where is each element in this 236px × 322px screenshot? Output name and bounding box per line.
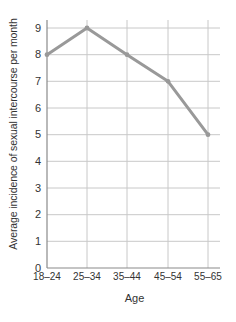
x-tick-label: 18–24 (33, 271, 61, 282)
x-tick-label: 55–65 (194, 271, 222, 282)
x-axis-title: Age (47, 292, 222, 304)
y-tick-label: 5 (35, 128, 41, 140)
vertical-gridlines (87, 20, 208, 268)
y-tick-label: 7 (35, 75, 41, 87)
data-point (85, 26, 90, 31)
y-tick-label: 6 (35, 102, 41, 114)
y-tick-label: 4 (35, 155, 41, 167)
y-tick-label: 1 (35, 235, 41, 247)
data-point (45, 52, 50, 57)
data-point (125, 52, 130, 57)
x-tick-label: 35–44 (113, 271, 141, 282)
x-tick-label: 45–54 (154, 271, 182, 282)
x-tick-labels: 18–24 25–34 35–44 45–54 55–65 (33, 271, 222, 282)
y-tick-label: 3 (35, 182, 41, 194)
y-tick-label: 8 (35, 48, 41, 60)
y-tick-label: 2 (35, 208, 41, 220)
data-point (206, 132, 211, 137)
line-chart: Average incidence of sexual intercourse … (0, 0, 236, 322)
plot-area: 0 1 2 3 4 5 6 7 8 9 18–24 25–34 35–44 45… (0, 0, 236, 322)
data-point (166, 79, 171, 84)
y-tick-labels: 0 1 2 3 4 5 6 7 8 9 (35, 22, 41, 274)
x-tick-label: 25–34 (73, 271, 101, 282)
y-tick-label: 9 (35, 22, 41, 34)
